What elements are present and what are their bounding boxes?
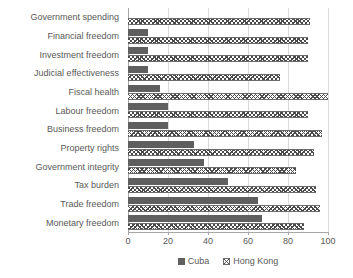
bar-chart: Government spending Financial freedom In… bbox=[0, 0, 353, 278]
y-axis-label: Fiscal health bbox=[0, 83, 124, 102]
bar-cuba[interactable] bbox=[128, 103, 168, 110]
bar-hong-kong[interactable] bbox=[128, 74, 280, 81]
bar-cuba[interactable] bbox=[128, 29, 148, 36]
bar-group bbox=[128, 139, 328, 158]
bar-hong-kong[interactable] bbox=[128, 130, 322, 137]
bar-hong-kong[interactable] bbox=[128, 93, 328, 100]
y-axis-label: Monetary freedom bbox=[0, 213, 124, 232]
y-axis-category-labels: Government spending Financial freedom In… bbox=[0, 8, 124, 232]
legend-item-cuba[interactable]: Cuba bbox=[178, 256, 210, 267]
bar-group bbox=[128, 83, 328, 102]
y-axis-label: Financial freedom bbox=[0, 27, 124, 46]
x-tick-label: 80 bbox=[283, 236, 293, 247]
x-tick-label: 100 bbox=[320, 236, 335, 247]
bar-cuba[interactable] bbox=[128, 47, 148, 54]
x-tick-mark bbox=[328, 232, 329, 235]
bar-hong-kong[interactable] bbox=[128, 18, 310, 25]
bar-group bbox=[128, 195, 328, 214]
x-tick-mark bbox=[168, 232, 169, 235]
bar-cuba[interactable] bbox=[128, 197, 258, 204]
bar-group bbox=[128, 45, 328, 64]
bar-group bbox=[128, 213, 328, 232]
bar-cuba[interactable] bbox=[128, 122, 168, 129]
plot-area bbox=[128, 8, 328, 232]
y-axis-label: Labour freedom bbox=[0, 101, 124, 120]
bar-cuba[interactable] bbox=[128, 85, 160, 92]
bar-hong-kong[interactable] bbox=[128, 37, 308, 44]
x-tick-mark bbox=[128, 232, 129, 235]
bar-group bbox=[128, 101, 328, 120]
bar-group bbox=[128, 27, 328, 46]
bar-cuba[interactable] bbox=[128, 159, 204, 166]
bar-cuba[interactable] bbox=[128, 66, 148, 73]
solid-square-icon bbox=[178, 258, 185, 265]
legend-item-hong-kong[interactable]: Hong Kong bbox=[223, 256, 278, 267]
x-axis-ticks: 020406080100 bbox=[128, 232, 328, 244]
x-tick-label: 60 bbox=[243, 236, 253, 247]
y-axis-label: Investment freedom bbox=[0, 45, 124, 64]
legend-label: Cuba bbox=[188, 256, 210, 267]
y-axis-label: Government integrity bbox=[0, 157, 124, 176]
x-tick-mark bbox=[248, 232, 249, 235]
bar-group bbox=[128, 120, 328, 139]
bar-group bbox=[128, 176, 328, 195]
bar-hong-kong[interactable] bbox=[128, 205, 320, 212]
gridline bbox=[328, 8, 329, 232]
legend: Cuba Hong Kong bbox=[128, 256, 328, 267]
y-axis-label: Judicial effectiveness bbox=[0, 64, 124, 83]
y-axis-label: Property rights bbox=[0, 139, 124, 158]
bar-rows bbox=[128, 8, 328, 232]
bar-hong-kong[interactable] bbox=[128, 55, 308, 62]
x-tick-label: 20 bbox=[163, 236, 173, 247]
y-axis-label: Tax burden bbox=[0, 176, 124, 195]
x-tick-mark bbox=[208, 232, 209, 235]
bar-cuba[interactable] bbox=[128, 141, 194, 148]
bar-cuba[interactable] bbox=[128, 215, 262, 222]
bar-hong-kong[interactable] bbox=[128, 149, 314, 156]
bar-hong-kong[interactable] bbox=[128, 167, 296, 174]
bar-hong-kong[interactable] bbox=[128, 223, 304, 230]
bar-group bbox=[128, 157, 328, 176]
bar-group bbox=[128, 64, 328, 83]
bar-group bbox=[128, 8, 328, 27]
bar-cuba[interactable] bbox=[128, 178, 228, 185]
y-axis-label: Government spending bbox=[0, 8, 124, 27]
bar-hong-kong[interactable] bbox=[128, 186, 316, 193]
x-tick-label: 40 bbox=[203, 236, 213, 247]
y-axis-label: Business freedom bbox=[0, 120, 124, 139]
hatched-square-icon bbox=[223, 258, 230, 265]
x-tick-label: 0 bbox=[125, 236, 130, 247]
legend-label: Hong Kong bbox=[233, 256, 278, 267]
y-axis-label: Trade freedom bbox=[0, 195, 124, 214]
bar-hong-kong[interactable] bbox=[128, 111, 308, 118]
x-tick-mark bbox=[288, 232, 289, 235]
